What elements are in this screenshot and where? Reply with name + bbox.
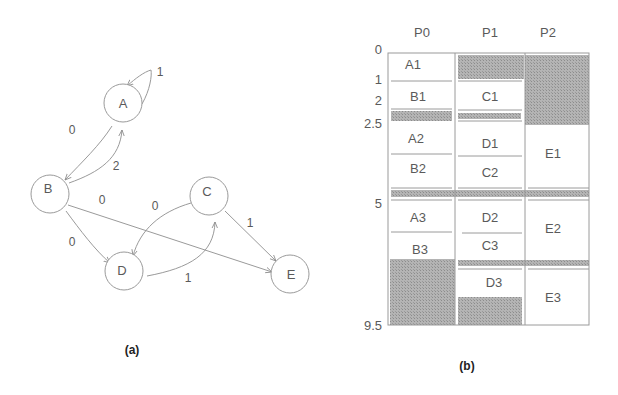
node-label-B: B (44, 181, 53, 196)
edge-weight-B-A: 2 (113, 159, 120, 173)
edge-B-A (69, 130, 122, 183)
y-tick-5: 5 (375, 196, 382, 211)
edge-B-E (68, 205, 272, 272)
sync-P0-1 (391, 111, 452, 121)
task-D2: D2 (482, 210, 499, 225)
caption-b: (b) (459, 359, 474, 373)
schedule-chart: P0 P1 P2 0 1 2 2.5 5 9.5 (364, 25, 589, 373)
task-B3: B3 (412, 242, 428, 257)
column-header-P0: P0 (414, 25, 430, 40)
task-A1: A1 (405, 57, 421, 72)
idle-P2-top (525, 55, 589, 125)
y-tick-1: 1 (375, 72, 382, 87)
task-D1: D1 (482, 136, 499, 151)
edge-weight-C-E: 1 (247, 216, 254, 230)
task-B2: B2 (410, 161, 426, 176)
task-D3: D3 (486, 275, 503, 290)
edge-weight-D-C: 1 (185, 271, 192, 285)
idle-P1-bottom (458, 297, 522, 325)
figure: A B C D E 1 0 2 0 0 0 1 1 (a) P0 P1 P2 0 (0, 0, 618, 395)
task-C1: C1 (482, 89, 499, 104)
task-E3: E3 (545, 290, 561, 305)
idle-P1-top (458, 55, 524, 79)
edge-D-C (147, 222, 215, 276)
task-A3: A3 (410, 210, 426, 225)
sync-all-2 (391, 190, 589, 197)
task-B1: B1 (410, 89, 426, 104)
task-C3: C3 (482, 238, 499, 253)
caption-a: (a) (125, 343, 140, 357)
edge-weight-C-D: 0 (152, 199, 159, 213)
idle-P0-bottom (390, 259, 455, 325)
y-tick-2: 2 (375, 93, 382, 108)
node-label-A: A (119, 96, 128, 111)
column-header-P2: P2 (540, 25, 556, 40)
edge-weight-A-B: 0 (69, 123, 76, 137)
edge-weight-B-E: 0 (99, 193, 106, 207)
column-header-P1: P1 (482, 25, 498, 40)
task-E2: E2 (545, 221, 561, 236)
node-label-D: D (117, 263, 126, 278)
edge-weight-A-A: 1 (157, 65, 164, 79)
node-label-E: E (287, 267, 296, 282)
sync-P1P2-3 (458, 260, 589, 266)
task-A2: A2 (408, 131, 424, 146)
y-tick-0: 0 (375, 42, 382, 57)
sync-P1-1 (458, 113, 521, 119)
task-graph: A B C D E 1 0 2 0 0 0 1 1 (a) (31, 65, 309, 357)
task-E1: E1 (545, 146, 561, 161)
task-C2: C2 (482, 165, 499, 180)
y-tick-9.5: 9.5 (364, 318, 382, 333)
node-label-C: C (202, 184, 211, 199)
edge-weight-B-D: 0 (69, 235, 76, 249)
y-tick-2.5: 2.5 (364, 116, 382, 131)
